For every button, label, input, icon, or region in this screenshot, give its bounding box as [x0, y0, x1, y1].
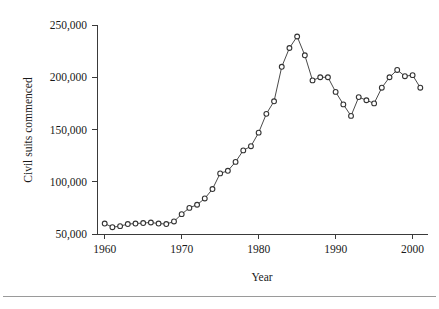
data-point	[264, 111, 269, 116]
data-point	[403, 74, 408, 79]
y-tick-label: 50,000	[55, 228, 87, 241]
data-point	[164, 222, 169, 227]
data-point	[326, 75, 331, 80]
data-point	[418, 85, 423, 90]
x-axis-title: Year	[251, 271, 272, 283]
data-line-civil-suits	[105, 37, 421, 228]
data-point	[349, 114, 354, 119]
data-point	[195, 202, 200, 207]
data-markers	[102, 34, 422, 230]
x-tick-label: 1970	[170, 243, 193, 255]
data-point	[141, 221, 146, 226]
x-tick-label: 1990	[324, 243, 347, 255]
data-point	[302, 53, 307, 58]
data-point	[387, 75, 392, 80]
figure-container: 50,000100,000150,000200,000250,000 19601…	[0, 0, 439, 309]
data-point	[233, 160, 238, 165]
data-point	[395, 68, 400, 73]
y-tick-label: 100,000	[50, 176, 88, 189]
data-point	[256, 130, 261, 135]
y-tick-label: 150,000	[50, 124, 88, 137]
y-tick-label: 200,000	[50, 71, 88, 84]
data-point	[125, 222, 130, 227]
data-point	[318, 75, 323, 80]
data-point	[410, 73, 415, 78]
x-tick-label: 1960	[93, 243, 116, 255]
data-point	[172, 219, 177, 224]
data-point	[333, 89, 338, 94]
data-point	[379, 85, 384, 90]
data-point	[179, 212, 184, 217]
data-point	[249, 144, 254, 149]
data-point	[210, 187, 215, 192]
line-chart: 50,000100,000150,000200,000250,000 19601…	[0, 0, 439, 309]
data-point	[287, 46, 292, 51]
data-point	[148, 220, 153, 225]
data-point	[272, 99, 277, 104]
data-point	[133, 221, 138, 226]
data-point	[102, 221, 107, 226]
data-point	[218, 171, 223, 176]
x-tick-label: 1980	[247, 243, 270, 255]
data-point	[279, 64, 284, 69]
data-point	[372, 101, 377, 106]
x-axis-ticks: 19601970198019902000	[93, 234, 424, 255]
y-axis-title: Civil suits commenced	[22, 77, 34, 183]
data-point	[202, 196, 207, 201]
y-tick-label: 250,000	[50, 19, 88, 32]
data-point	[241, 148, 246, 153]
data-point	[118, 224, 123, 229]
x-tick-label: 2000	[401, 243, 424, 255]
footer-divider	[3, 296, 436, 297]
data-point	[156, 221, 161, 226]
data-point	[187, 205, 192, 210]
data-point	[364, 98, 369, 103]
data-point	[110, 225, 115, 230]
data-point	[341, 102, 346, 107]
data-point	[225, 168, 230, 173]
y-axis-ticks: 50,000100,000150,000200,000250,000	[50, 19, 97, 241]
data-point	[356, 95, 361, 100]
data-point	[310, 78, 315, 83]
data-point	[295, 34, 300, 39]
